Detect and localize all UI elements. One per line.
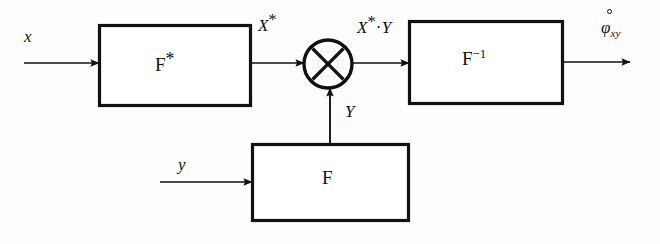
ring-accent-icon <box>607 9 612 14</box>
label-input-y: y <box>178 156 186 173</box>
signal-label-product-second: Y <box>382 18 391 37</box>
signal-label-product-base: X <box>357 18 367 37</box>
signal-label-x-star-dot-y: X*·Y <box>357 14 391 36</box>
block-label-f-inverse-superscript: −1 <box>473 46 487 61</box>
block-label-f-inverse-base: F <box>462 48 473 69</box>
diagram-canvas <box>0 0 660 244</box>
label-input-x: x <box>24 28 32 45</box>
output-phi-base: φ <box>601 18 610 37</box>
block-label-f-star-superscript: * <box>166 49 175 69</box>
block-diagram: x y F* F−1 F X* X*·Y Y φxy <box>0 0 660 244</box>
signal-label-x-star: X* <box>258 12 276 34</box>
output-phi-subscript: xy <box>610 27 620 39</box>
block-label-f-forward: F <box>322 168 333 187</box>
signal-label-x-star-superscript: * <box>268 11 276 28</box>
block-label-f-star: F* <box>155 50 175 74</box>
block-label-f-inverse: F−1 <box>462 48 486 68</box>
label-output-phi-xy: φxy <box>601 10 620 40</box>
block-f-star-rect <box>100 26 251 106</box>
output-phi-stack: φxy <box>601 10 620 40</box>
signal-label-y-branch: Y <box>345 103 354 120</box>
signal-label-x-star-base: X <box>258 16 268 35</box>
block-label-f-star-base: F <box>155 54 166 75</box>
